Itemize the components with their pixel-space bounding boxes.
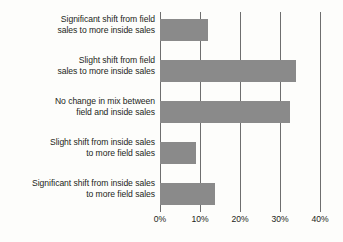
bar-3	[160, 142, 196, 164]
category-axis-labels: Significant shift from field sales to mo…	[0, 0, 155, 212]
plot-area	[160, 12, 321, 212]
xtick-label-4: 40%	[300, 214, 340, 225]
bar-chart: Significant shift from field sales to mo…	[0, 0, 343, 242]
category-label-1: Slight shift from field sales to more in…	[0, 55, 155, 77]
bar-1	[160, 60, 296, 82]
value-axis-tick-labels: 0% 10% 20% 30% 40%	[0, 214, 343, 230]
category-label-4: Significant shift from inside sales to m…	[0, 178, 155, 200]
bar-0	[160, 19, 208, 41]
bar-4	[160, 183, 215, 205]
gridline-40	[320, 12, 321, 212]
xtick-label-3: 30%	[260, 214, 300, 225]
category-label-0: Significant shift from field sales to mo…	[0, 14, 155, 36]
category-label-2: No change in mix between field and insid…	[0, 96, 155, 118]
xtick-label-1: 10%	[180, 214, 220, 225]
xtick-label-2: 20%	[220, 214, 260, 225]
xtick-label-0: 0%	[140, 214, 180, 225]
category-label-3: Slight shift from inside sales to more f…	[0, 137, 155, 159]
bar-2	[160, 101, 290, 123]
